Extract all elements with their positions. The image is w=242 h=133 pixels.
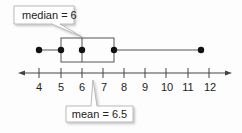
box-plot-svg: median = 6 4 5 6 7 8 9 10 11 (0, 0, 242, 133)
tick-label: 8 (121, 81, 127, 93)
max-point (198, 47, 204, 53)
right-arrow-icon (225, 71, 232, 76)
iqr-box (61, 38, 114, 62)
tick-label: 10 (161, 81, 173, 93)
tick-label: 12 (204, 81, 216, 93)
median-callout: median = 6 (14, 6, 82, 37)
median-point (79, 47, 85, 53)
box-plot-diagram: median = 6 4 5 6 7 8 9 10 11 (0, 0, 242, 133)
tick-label: 5 (58, 81, 64, 93)
tick-label: 4 (36, 81, 42, 93)
q1-point (58, 47, 64, 53)
q3-point (111, 47, 117, 53)
tick-label: 7 (101, 81, 107, 93)
left-arrow-icon (18, 71, 25, 76)
number-line: 4 5 6 7 8 9 10 11 12 (18, 68, 232, 93)
mean-callout-label: mean = 6.5 (72, 108, 127, 120)
tick-label: 9 (142, 81, 148, 93)
min-point (36, 47, 42, 53)
median-callout-label: median = 6 (22, 9, 77, 21)
tick-label: 6 (79, 81, 85, 93)
tick-label: 11 (182, 81, 193, 93)
